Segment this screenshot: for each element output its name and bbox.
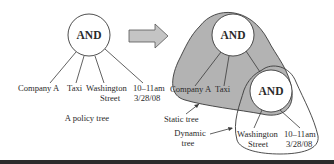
left-leaf-time: 10–11am [133, 83, 165, 93]
right-leaf-washington: Washington [237, 129, 279, 139]
policy-tree-diagram: AND Company A Taxi Washington Street 10–… [0, 0, 334, 164]
transform-arrow-icon [129, 24, 168, 48]
edge-left-taxi [76, 56, 84, 83]
dynamic-pointer-arrowhead-icon [228, 127, 233, 131]
edge-right-time [280, 110, 300, 128]
bottom-border [0, 160, 334, 164]
right-leaf-time: 10–11am [284, 129, 316, 139]
static-tree-label: Static tree [164, 114, 199, 124]
right-leaf-street: Street [248, 139, 269, 149]
right-sub-and-label: AND [259, 85, 284, 97]
right-policy-tree: AND AND Company A Taxi Washington Street… [164, 12, 318, 154]
edge-left-time [105, 49, 143, 83]
dynamic-tree-label-line2: tree [182, 138, 195, 148]
left-leaf-street: Street [100, 93, 121, 103]
left-and-label: AND [77, 29, 102, 41]
edge-left-company [50, 52, 76, 83]
right-leaf-taxi: Taxi [215, 84, 231, 94]
diagram-canvas: AND Company A Taxi Washington Street 10–… [0, 0, 334, 164]
left-leaf-company: Company A [18, 83, 60, 93]
edge-left-washington [95, 56, 104, 83]
dynamic-tree-label-line1: Dynamic [174, 128, 206, 138]
left-leaf-washington: Washington [86, 83, 128, 93]
left-leaf-date: 3/28/08 [134, 93, 160, 103]
left-leaf-taxi: Taxi [67, 83, 83, 93]
left-caption: A policy tree [65, 113, 110, 123]
right-leaf-date: 3/28/08 [286, 139, 312, 149]
right-and-label: AND [221, 29, 246, 41]
right-leaf-company: Company A [170, 84, 212, 94]
